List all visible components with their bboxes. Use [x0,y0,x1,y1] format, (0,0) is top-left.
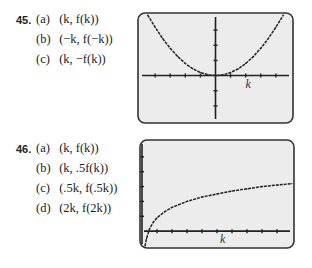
part-label: (a) [36,12,56,27]
part-label: (c) [36,52,56,67]
calculator-screen-46: k [139,139,295,249]
data-point [164,211,165,212]
data-point [146,238,147,239]
data-point [215,75,216,76]
problem-part: (d) (2k, f(2k)) [36,201,111,216]
problem-part: (a) (k, f(k)) [36,12,99,27]
x-axis-label: k [220,232,226,246]
part-label: (a) [36,141,56,156]
data-point [192,68,193,69]
problem-part: (c) (.5k, f(.5k)) [36,181,117,196]
data-point [260,48,261,49]
data-point [162,38,163,39]
part-label: (c) [36,181,56,196]
problem-part: (b) (k, .5f(k)) [36,161,108,176]
part-expression: (k, f(k)) [59,12,99,26]
data-point [156,217,157,218]
data-point [261,186,262,187]
calculator-screen-45: k [137,12,294,124]
data-point [216,193,217,194]
data-point [186,201,187,202]
data-point [245,63,246,64]
data-point [201,196,202,197]
data-point [253,56,254,57]
part-expression: (k, f(k)) [59,141,99,155]
x-axis-label: k [246,77,252,91]
data-point [238,68,239,69]
part-label: (d) [36,201,56,216]
data-point [153,222,154,223]
data-point [222,74,223,75]
data-point [230,72,231,73]
data-point [147,14,148,15]
data-point [207,74,208,75]
problem-part: (b) (−k, f(−k)) [36,32,113,47]
data-point [275,27,276,28]
data-point [200,72,201,73]
data-point [149,228,150,229]
problem-number: 46. [16,143,31,155]
problem-part: (a) (k, f(k)) [36,141,99,156]
data-point [185,63,186,64]
problem-number: 45. [16,14,31,26]
problem-part: (c) (k, −f(k)) [36,52,106,67]
data-point [155,27,156,28]
part-label: (b) [36,161,56,176]
part-expression: (2k, f(2k)) [59,201,111,215]
data-point [177,56,178,57]
data-point [283,14,284,15]
data-point [268,38,269,39]
data-point [246,188,247,189]
data-point [144,245,145,246]
data-point [276,184,277,185]
part-label: (b) [36,32,56,47]
part-expression: (.5k, f(.5k)) [59,181,117,195]
part-expression: (k, −f(k)) [59,52,106,66]
data-point [171,207,172,208]
data-point [291,183,292,184]
part-expression: (−k, f(−k)) [59,32,113,46]
data-point [231,190,232,191]
data-point [170,48,171,49]
part-expression: (k, .5f(k)) [59,161,108,175]
